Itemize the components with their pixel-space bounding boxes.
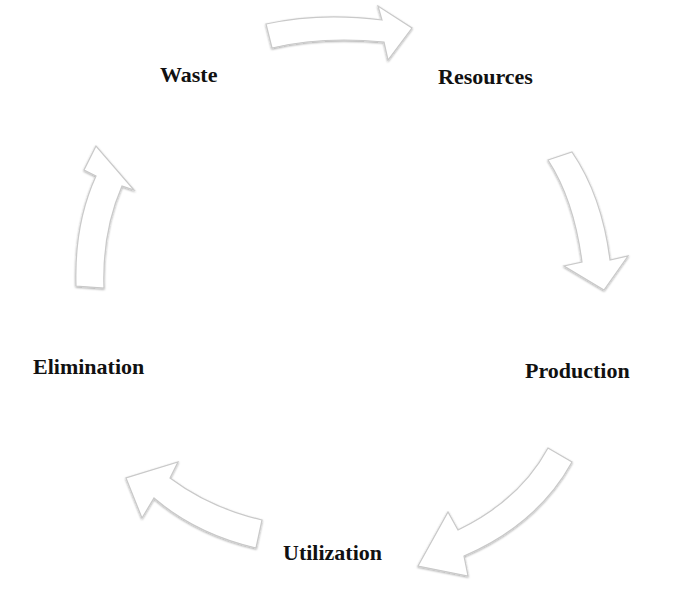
arrow-production-to-utilization <box>418 448 572 576</box>
node-production: Production <box>525 360 630 382</box>
arrow-resources-to-production <box>548 152 628 290</box>
node-resources: Resources <box>438 66 533 88</box>
node-utilization: Utilization <box>283 542 382 564</box>
arrow-waste-to-resources <box>266 6 412 60</box>
cycle-diagram <box>0 0 678 610</box>
node-waste: Waste <box>160 64 217 86</box>
arrow-elimination-to-waste <box>76 146 134 288</box>
node-elimination: Elimination <box>33 356 144 378</box>
arrow-utilization-to-elimination <box>126 462 262 548</box>
